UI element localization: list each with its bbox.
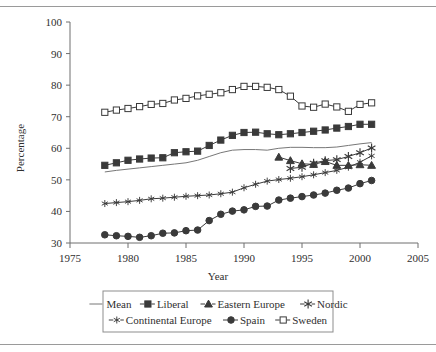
- square-marker: [102, 162, 108, 168]
- data-point: [252, 203, 259, 210]
- open-square-marker: [218, 90, 224, 96]
- page-rule-bottom: [0, 344, 436, 345]
- circle-marker: [264, 203, 271, 210]
- open-square-marker: [171, 97, 177, 103]
- circle-marker: [206, 217, 213, 224]
- data-point: [253, 83, 259, 89]
- square-marker: [148, 155, 154, 161]
- data-point: [148, 101, 154, 107]
- legend-label: Sweden: [292, 314, 327, 326]
- square-marker: [357, 121, 363, 127]
- data-point: [287, 195, 294, 202]
- data-point: [183, 95, 189, 101]
- legend-item-mean[interactable]: Mean: [89, 298, 132, 310]
- data-point: [334, 125, 340, 131]
- data-point: [311, 128, 317, 134]
- data-point: [241, 207, 248, 214]
- open-square-marker: [113, 107, 119, 113]
- x-tick-label: 2005: [407, 252, 430, 264]
- data-point: [206, 142, 212, 148]
- square-marker: [369, 121, 375, 127]
- square-marker: [334, 125, 340, 131]
- circle-marker: [252, 203, 259, 210]
- triangle-marker: [275, 153, 283, 160]
- data-point: [368, 144, 376, 153]
- open-square-marker: [287, 93, 293, 99]
- circle-marker: [125, 233, 132, 240]
- data-point: [195, 148, 201, 154]
- circle-marker: [148, 232, 155, 239]
- square-marker: [195, 148, 201, 154]
- circle-marker: [102, 231, 109, 238]
- circle-marker: [218, 211, 225, 218]
- circle-marker: [345, 185, 352, 192]
- data-point: [160, 100, 166, 106]
- axes-group: 30405060708090100 1975198019851990199520…: [46, 16, 430, 264]
- open-square-marker: [137, 104, 143, 110]
- y-tick-label: 80: [51, 79, 63, 91]
- data-point: [102, 162, 108, 168]
- series-nordic: [287, 144, 376, 173]
- open-square-marker: [299, 103, 305, 109]
- series-path: [105, 86, 372, 112]
- legend-label: Continental Europe: [126, 314, 212, 326]
- series-group: [102, 83, 376, 240]
- y-axis-ticks: 30405060708090100: [46, 16, 71, 249]
- circle-marker: [334, 187, 341, 194]
- data-point: [276, 86, 282, 92]
- open-square-marker: [102, 109, 108, 115]
- data-point: [310, 192, 317, 199]
- x-axis-title: Year: [208, 270, 229, 282]
- circle-marker: [368, 177, 375, 184]
- data-point: [113, 232, 120, 239]
- x-tick-label: 2000: [349, 252, 372, 264]
- x-tick-label: 1980: [117, 252, 140, 264]
- data-point: [206, 91, 212, 97]
- open-square-marker: [264, 84, 270, 90]
- data-point: [357, 121, 363, 127]
- data-point: [253, 181, 259, 188]
- circle-marker: [194, 227, 201, 234]
- square-marker: [125, 157, 131, 163]
- series-path: [105, 143, 372, 172]
- open-square-marker: [334, 104, 340, 110]
- data-point: [229, 132, 235, 138]
- x-tick-label: 1995: [291, 252, 314, 264]
- data-point: [171, 150, 177, 156]
- data-point: [206, 217, 213, 224]
- square-marker: [322, 127, 328, 133]
- data-point: [125, 233, 132, 240]
- y-tick-label: 100: [46, 16, 63, 28]
- square-marker: [160, 155, 166, 161]
- circle-marker: [276, 197, 283, 204]
- y-tick-label: 90: [51, 48, 63, 60]
- x-tick-label: 1990: [233, 252, 256, 264]
- data-point: [241, 184, 247, 191]
- square-marker: [264, 131, 270, 137]
- data-point: [264, 203, 271, 210]
- data-point: [356, 148, 364, 157]
- data-point: [229, 208, 236, 215]
- data-point: [357, 101, 363, 107]
- data-point: [171, 230, 178, 237]
- circle-marker: [299, 193, 306, 200]
- x-tick-label: 1985: [175, 252, 198, 264]
- data-point: [160, 155, 166, 161]
- data-point: [241, 129, 247, 135]
- y-tick-label: 70: [51, 111, 63, 123]
- data-point: [253, 129, 259, 135]
- open-square-marker: [276, 86, 282, 92]
- data-point: [276, 132, 282, 138]
- circle-marker: [357, 180, 364, 187]
- data-point: [125, 105, 131, 111]
- data-point: [194, 227, 201, 234]
- legend-marker: [280, 317, 286, 323]
- data-point: [137, 156, 143, 162]
- y-tick-label: 50: [51, 174, 63, 186]
- circle-marker: [287, 195, 294, 202]
- series-sweden: [102, 83, 375, 115]
- circle-marker: [113, 232, 120, 239]
- square-marker: [287, 131, 293, 137]
- open-square-marker: [206, 91, 212, 97]
- square-marker: [345, 123, 351, 129]
